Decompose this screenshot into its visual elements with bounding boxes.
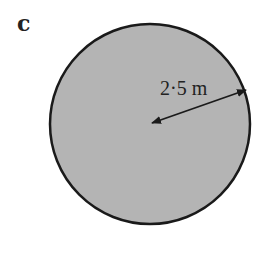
circle-diagram: 2·5 m	[0, 0, 264, 263]
radius-label: 2·5 m	[160, 77, 208, 99]
circle	[50, 24, 250, 224]
